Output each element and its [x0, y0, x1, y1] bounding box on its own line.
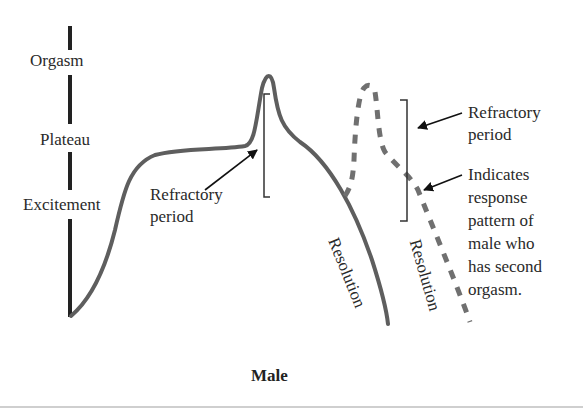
- male-sexual-response-diagram: Orgasm Plateau Excitement Refractory per…: [0, 0, 583, 410]
- label-orgasm: Orgasm: [30, 50, 84, 72]
- refractory-bracket-right: [400, 100, 407, 221]
- caption-male: Male: [251, 366, 288, 386]
- label-indicates-5: has second: [468, 256, 542, 278]
- label-indicates-3: pattern of: [468, 210, 534, 232]
- arrow-indicates: [424, 175, 462, 190]
- label-indicates-1: Indicates: [468, 164, 529, 186]
- label-refractory-right-1: Refractory: [468, 102, 541, 124]
- label-excitement: Excitement: [23, 194, 100, 216]
- label-indicates-4: male who: [468, 233, 535, 255]
- refractory-bracket-left: [264, 94, 270, 197]
- label-refractory-left-2: period: [150, 206, 193, 228]
- label-refractory-right-2: period: [468, 124, 511, 146]
- bottom-divider: [0, 406, 583, 408]
- label-indicates-2: response: [468, 187, 527, 209]
- label-plateau: Plateau: [40, 129, 90, 151]
- label-refractory-left-1: Refractory: [150, 184, 223, 206]
- label-indicates-6: orgasm.: [468, 279, 522, 301]
- arrow-right-refractory: [418, 113, 462, 128]
